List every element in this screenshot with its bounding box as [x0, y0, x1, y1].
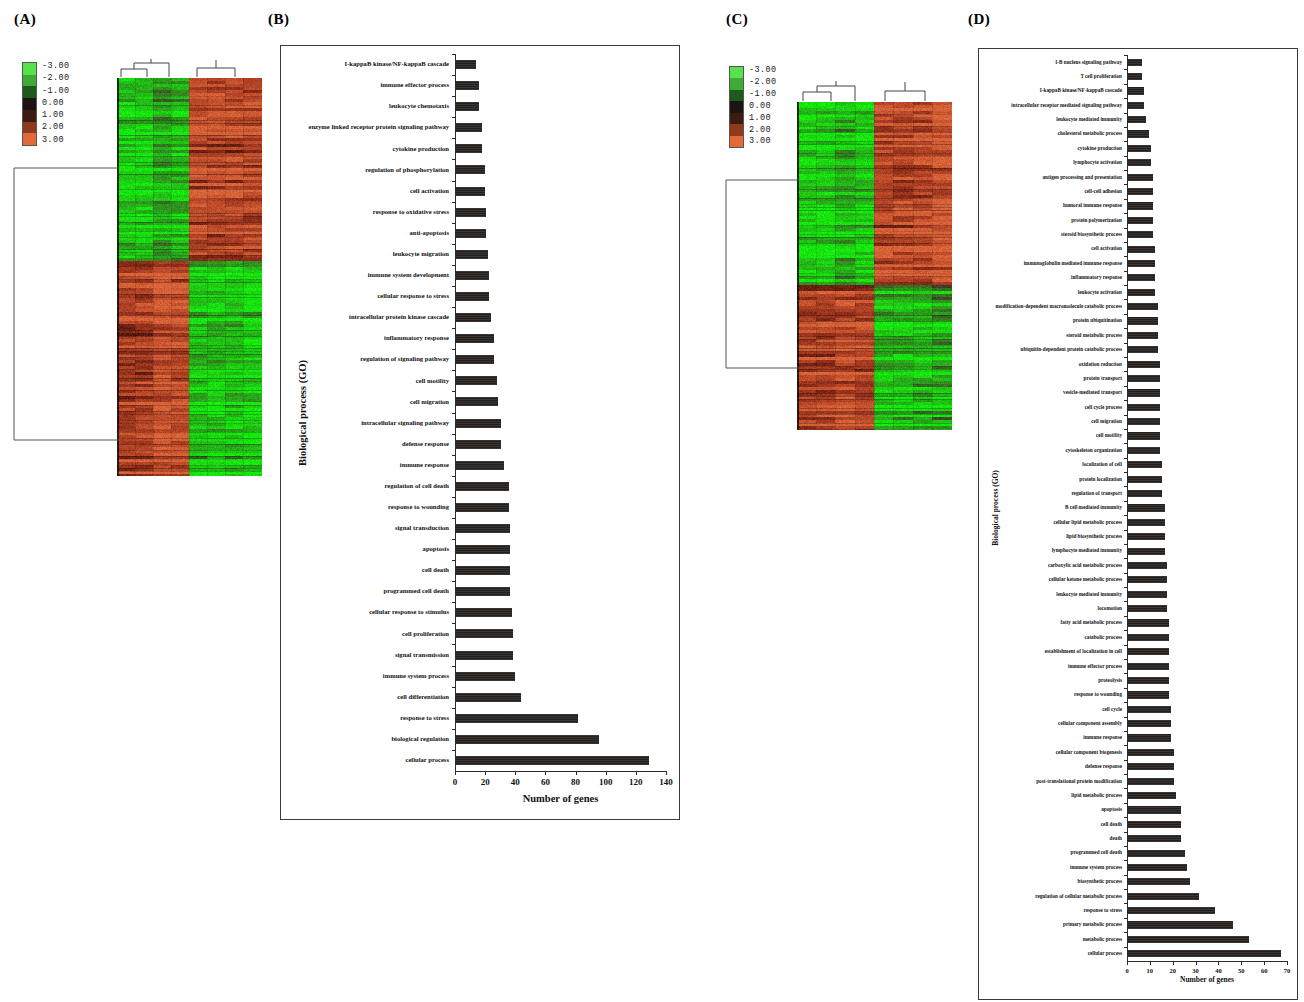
legend-color-segment	[730, 113, 743, 124]
heatmap-colorbar-a	[22, 62, 37, 146]
bar	[1128, 835, 1181, 842]
legend-tick-label: -1.00	[42, 87, 70, 96]
x-axis-tick-label: 140	[648, 777, 684, 787]
bar	[1128, 274, 1155, 281]
bar-category-label: cell proliferation	[299, 624, 449, 644]
heatmap-matrix-c	[797, 102, 952, 430]
bar-category-label: post-translational protein modification	[992, 774, 1122, 789]
y-axis-tick	[1124, 98, 1127, 99]
y-axis-tick	[1124, 371, 1127, 372]
y-axis-tick	[1124, 328, 1127, 329]
bar-category-label: response to wounding	[299, 497, 449, 517]
x-axis-tick	[1150, 961, 1151, 965]
bar-category-label: death	[992, 831, 1122, 846]
bar	[1128, 432, 1160, 439]
bar	[1128, 734, 1171, 741]
bar	[456, 60, 476, 69]
bar-category-label: programmed cell death	[299, 582, 449, 602]
y-axis-tick	[452, 54, 455, 55]
bar-category-label: anti-apoptosis	[299, 223, 449, 243]
x-axis-tick	[1173, 961, 1174, 965]
heatmap-legend-ticks-a: -3.00-2.00-1.000.001.002.003.00	[42, 62, 70, 144]
bar	[456, 672, 515, 681]
bar	[1128, 504, 1165, 511]
bar	[1128, 720, 1171, 727]
bar	[1128, 202, 1153, 209]
bar	[1128, 907, 1215, 914]
bar-category-label: cell activation	[299, 181, 449, 201]
bar	[456, 566, 510, 575]
bar	[1128, 648, 1169, 655]
y-axis-tick	[1124, 55, 1127, 56]
panel-c-heatmap: -3.00-2.00-1.000.001.002.003.00	[712, 0, 972, 460]
x-axis-tick	[1287, 961, 1288, 965]
bar-category-label: cellular lipid metabolic process	[992, 515, 1122, 530]
y-axis-tick	[1124, 673, 1127, 674]
bar	[1128, 260, 1155, 267]
y-axis-tick	[452, 644, 455, 645]
y-axis-tick	[1124, 573, 1127, 574]
y-axis-tick	[1124, 357, 1127, 358]
legend-tick-label: 0.00	[42, 99, 70, 108]
y-axis-tick	[1124, 199, 1127, 200]
bar	[1128, 691, 1169, 698]
bar	[1128, 677, 1169, 684]
bar	[456, 313, 491, 322]
bar	[1128, 778, 1174, 785]
bar-category-label: signal transduction	[299, 518, 449, 538]
bar	[1128, 303, 1158, 310]
y-axis-tick	[1124, 170, 1127, 171]
y-axis-tick	[452, 328, 455, 329]
bar	[456, 187, 485, 196]
bar-category-label: biological regulation	[299, 729, 449, 749]
bar-category-label: cell cycle	[992, 702, 1122, 717]
bar	[456, 144, 482, 153]
y-axis-title: Biological process (GO)	[297, 360, 308, 466]
bar-category-label: antigen processing and presentation	[992, 170, 1122, 185]
bar	[1128, 605, 1167, 612]
legend-tick-label: -2.00	[749, 78, 777, 87]
x-axis-line	[1127, 961, 1287, 962]
legend-color-segment	[730, 67, 743, 78]
bar	[456, 693, 521, 702]
y-axis-tick	[1124, 688, 1127, 689]
bar-category-label: lymphocyte mediated immunity	[992, 544, 1122, 559]
bar	[456, 165, 485, 174]
bar	[1128, 850, 1185, 857]
y-axis-tick	[1124, 889, 1127, 890]
y-axis-tick	[1124, 256, 1127, 257]
y-axis-tick	[452, 349, 455, 350]
bar-category-label: cell-cell adhesion	[992, 184, 1122, 199]
y-axis-tick	[452, 497, 455, 498]
bar	[1128, 792, 1176, 799]
bar	[456, 292, 489, 301]
y-axis-tick	[452, 518, 455, 519]
bar-category-label: leukocyte mediated immunity	[992, 112, 1122, 127]
legend-color-segment	[23, 86, 36, 98]
y-axis-tick	[1124, 860, 1127, 861]
y-axis-tick	[452, 96, 455, 97]
bar	[456, 524, 510, 533]
bar	[1128, 619, 1169, 626]
y-axis-tick	[1124, 299, 1127, 300]
x-axis-tick	[1127, 961, 1128, 965]
legend-tick-label: 3.00	[749, 137, 777, 146]
bar-category-label: cell migration	[992, 414, 1122, 429]
x-axis-tick	[636, 771, 637, 775]
legend-color-segment	[730, 90, 743, 101]
y-axis-tick	[1124, 141, 1127, 142]
y-axis-tick	[1124, 386, 1127, 387]
y-axis-tick	[1124, 486, 1127, 487]
bar	[456, 545, 510, 554]
legend-color-segment	[23, 75, 36, 87]
bar-category-label: cell migration	[299, 392, 449, 412]
y-axis-tick	[1124, 645, 1127, 646]
y-axis-tick	[1124, 501, 1127, 502]
bar-category-label: regulation of phosphorylation	[299, 160, 449, 180]
bar	[1128, 102, 1144, 109]
y-axis-tick	[452, 666, 455, 667]
bar	[1128, 893, 1199, 900]
bar-category-label: apoptosis	[299, 540, 449, 560]
y-axis-tick	[452, 75, 455, 76]
bar	[1128, 576, 1167, 583]
